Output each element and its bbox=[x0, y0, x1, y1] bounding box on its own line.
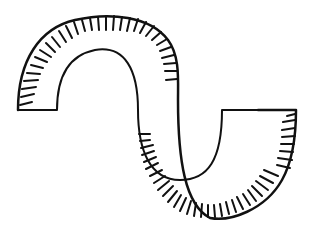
illustration-canvas bbox=[0, 0, 315, 241]
band-inner-outline bbox=[18, 49, 258, 180]
hatch-marks bbox=[20, 16, 295, 217]
s-curve-band-drawing bbox=[0, 0, 315, 241]
